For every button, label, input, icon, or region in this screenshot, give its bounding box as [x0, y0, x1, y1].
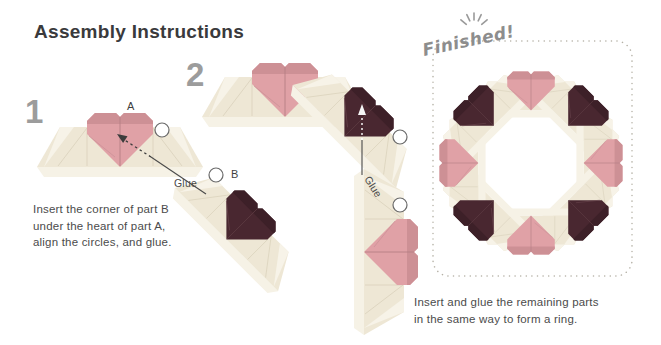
alignment-circle-step2-upper: [393, 130, 407, 144]
alignment-circle-step2-lower: [393, 198, 407, 212]
sparkle-rays-icon: [461, 13, 487, 24]
alignment-circle-b: [209, 168, 223, 182]
page-title: Assembly Instructions: [34, 21, 244, 43]
step2-line-1: Insert and glue the remaining parts: [414, 294, 599, 311]
step1-line-1: Insert the corner of part B: [33, 201, 172, 218]
step2-ring-piece-right: [354, 169, 418, 335]
step1-line-2: under the heart of part A,: [33, 218, 172, 235]
step1-line-3: align the circles, and glue.: [33, 234, 172, 251]
step2-instruction-text: Insert and glue the remaining parts in t…: [414, 294, 599, 327]
step1-number: 1: [25, 95, 43, 128]
part-b-label: B: [231, 168, 238, 180]
part-a-piece: [37, 113, 203, 177]
part-a-label: A: [127, 100, 135, 112]
alignment-circle-a: [155, 123, 169, 137]
step2-number: 2: [186, 58, 204, 91]
step1-instruction-text: Insert the corner of part B under the he…: [33, 201, 172, 251]
step2-line-2: in the same way to form a ring.: [414, 311, 599, 328]
instruction-sheet: Glue A B Glue: [0, 0, 661, 345]
finished-label: Finished!: [421, 21, 517, 60]
step1-glue-label: Glue: [174, 177, 197, 189]
finished-wreath: [431, 63, 631, 263]
